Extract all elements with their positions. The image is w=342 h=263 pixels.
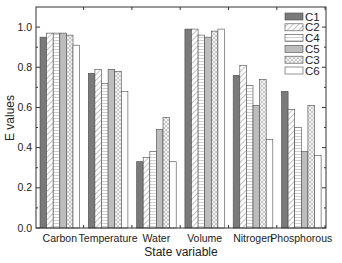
bar-c4-nitrogen [246, 85, 253, 228]
bar-c2-temperature [95, 69, 102, 228]
y-tick-label: 0.8 [17, 61, 32, 73]
y-tick-label: 0.6 [17, 101, 32, 113]
bar-c2-water [143, 158, 150, 228]
x-tick-label: Water [143, 232, 171, 244]
y-tick-label: 0.4 [17, 141, 32, 153]
legend-label: C6 [305, 65, 320, 77]
legend-swatch [285, 35, 303, 42]
y-axis-title: E values [3, 95, 17, 141]
bar-chart: 0.00.20.40.60.81.0 CarbonTemperatureWate… [0, 0, 342, 263]
bar-group-water [137, 118, 177, 229]
bar-c5-phosphorous [301, 152, 308, 228]
bar-c1-temperature [88, 73, 95, 228]
legend: C1C2C4C5C3C6 [285, 11, 320, 77]
bar-c2-nitrogen [240, 65, 247, 228]
bar-c2-phosphorous [288, 109, 295, 228]
bar-group-phosphorous [282, 91, 322, 228]
bar-c6-water [170, 162, 177, 228]
bar-c1-nitrogen [233, 75, 240, 228]
y-tick-label: 0.2 [17, 181, 32, 193]
bar-c3-nitrogen [260, 79, 267, 228]
bar-c1-water [137, 162, 144, 228]
bar-c3-phosphorous [308, 105, 315, 228]
bar-c5-nitrogen [253, 105, 260, 228]
bar-group-carbon [40, 33, 80, 228]
bar-c6-nitrogen [266, 140, 273, 228]
bar-c5-volume [205, 37, 212, 228]
bar-c6-carbon [73, 45, 80, 228]
bar-c4-temperature [102, 83, 109, 228]
y-tick-label: 0.0 [17, 222, 32, 234]
legend-swatch [285, 13, 303, 20]
bar-c2-volume [192, 29, 199, 228]
x-tick-label: Phosphorous [270, 232, 332, 244]
bar-group-temperature [88, 69, 128, 228]
bar-c5-temperature [108, 69, 115, 228]
bar-c3-temperature [115, 71, 122, 228]
legend-swatch [285, 24, 303, 31]
legend-swatch [285, 67, 303, 74]
x-tick-label: Nitrogen [233, 232, 273, 244]
x-tick-label: Volume [187, 232, 222, 244]
y-tick-label: 1.0 [17, 21, 32, 33]
bar-c1-carbon [40, 37, 47, 228]
bar-c2-carbon [47, 33, 54, 228]
x-tick-label: Carbon [43, 232, 78, 244]
bar-group-volume [185, 29, 225, 228]
bar-c3-water [163, 118, 170, 229]
bar-c4-volume [198, 35, 205, 228]
bar-c6-volume [218, 29, 225, 228]
legend-swatch [285, 56, 303, 63]
x-tick-label: Temperature [79, 232, 138, 244]
bar-c6-phosphorous [315, 156, 322, 228]
bar-c6-temperature [121, 91, 128, 228]
bar-c5-carbon [60, 33, 67, 228]
bar-c4-phosphorous [295, 128, 302, 228]
plot-area [40, 29, 321, 228]
bar-group-nitrogen [233, 65, 273, 228]
bar-c4-water [150, 152, 157, 228]
x-axis-title: State variable [144, 245, 218, 259]
bar-c3-carbon [66, 35, 73, 228]
bar-c4-carbon [53, 33, 60, 228]
bar-c5-water [156, 130, 163, 228]
legend-swatch [285, 45, 303, 52]
bar-c1-volume [185, 29, 192, 228]
legend-item-c6: C6 [285, 65, 320, 77]
bar-c1-phosphorous [282, 91, 289, 228]
bar-c3-volume [211, 31, 218, 228]
